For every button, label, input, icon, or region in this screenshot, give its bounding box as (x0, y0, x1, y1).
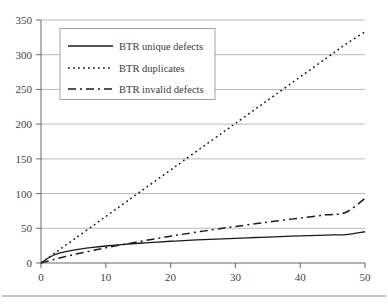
x-tick-label: 20 (165, 271, 177, 283)
legend-label: BTR invalid defects (119, 84, 204, 95)
y-tick-label: 250 (16, 83, 33, 95)
y-tick-label: 100 (16, 188, 33, 200)
x-tick-label: 30 (230, 271, 242, 283)
x-tick-label: 50 (360, 271, 372, 283)
y-tick-label: 50 (21, 222, 33, 234)
y-tick-marks (36, 20, 41, 263)
line-chart: 350 300 250 200 150 100 50 0 0 10 20 30 … (0, 0, 388, 305)
y-tick-labels: 350 300 250 200 150 100 50 0 (16, 14, 33, 269)
legend-label: BTR unique defects (119, 41, 203, 52)
x-tick-marks (41, 263, 365, 268)
y-tick-label: 0 (27, 257, 33, 269)
x-tick-label: 40 (295, 271, 307, 283)
x-tick-labels: 0 10 20 30 40 50 (38, 271, 371, 283)
figure-container: 350 300 250 200 150 100 50 0 0 10 20 30 … (0, 0, 388, 305)
x-tick-label: 0 (38, 271, 44, 283)
y-tick-label: 200 (16, 118, 33, 130)
y-tick-label: 150 (16, 153, 33, 165)
legend: BTR unique defects BTR duplicates BTR in… (60, 29, 215, 100)
y-tick-label: 350 (16, 14, 33, 26)
y-tick-label: 300 (16, 49, 33, 61)
legend-label: BTR duplicates (119, 63, 185, 74)
x-tick-label: 10 (100, 271, 112, 283)
